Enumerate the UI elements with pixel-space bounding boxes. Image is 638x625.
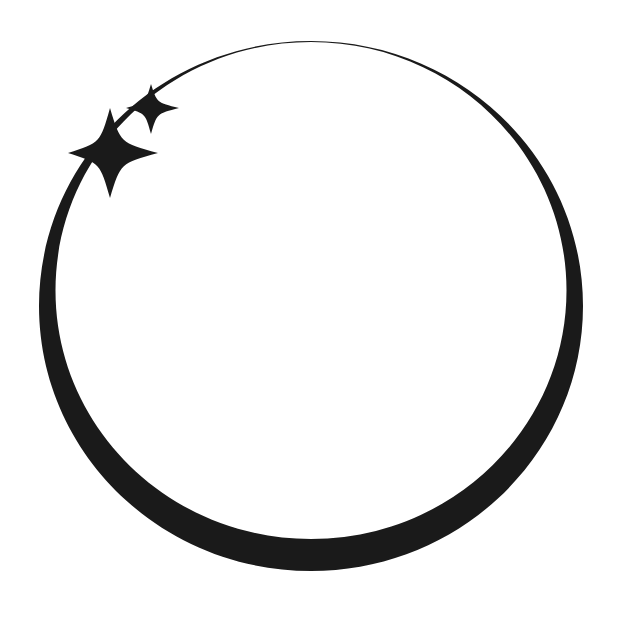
sparkle-circle-logo	[0, 0, 638, 625]
background-rect	[0, 0, 638, 625]
artboard: Hand-drawn tapering circular ring with t…	[0, 0, 638, 625]
